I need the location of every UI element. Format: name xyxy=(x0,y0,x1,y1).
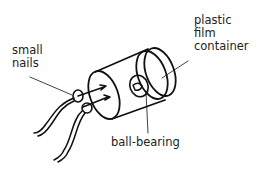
small-nails-label: small nails xyxy=(12,44,43,70)
ball-bearing-label-text: ball-bearing xyxy=(111,135,180,149)
wire-upper-a xyxy=(34,98,74,133)
container-body-top xyxy=(95,49,148,72)
leader-ball-bearing xyxy=(146,91,148,133)
small-nails-label-line2: nails xyxy=(12,57,43,70)
leader-small-nails xyxy=(30,77,72,95)
plastic-film-container-label: plastic film container xyxy=(194,14,249,53)
ball-bearing-shape xyxy=(133,83,142,90)
ball-bearing-label: ball-bearing xyxy=(111,136,180,149)
wire-upper-b xyxy=(38,101,74,136)
plastic-label-line3: container xyxy=(194,40,249,53)
nail-lower xyxy=(83,95,110,107)
nail-head-lower xyxy=(82,103,92,113)
